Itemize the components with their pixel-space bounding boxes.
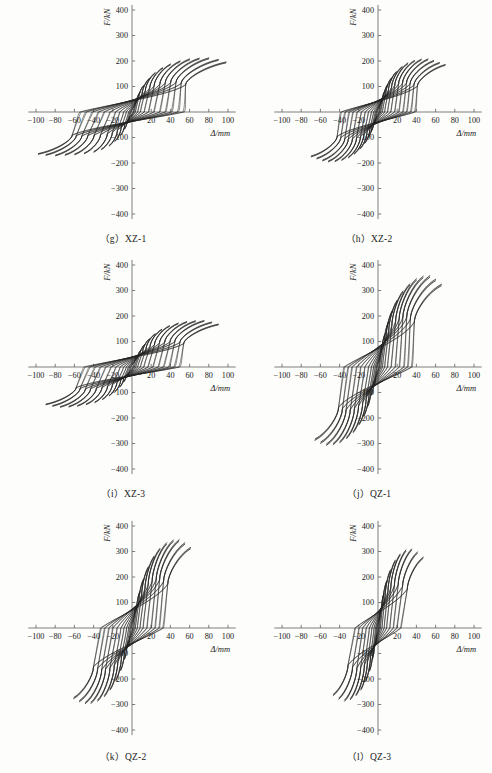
svg-text:200: 200 — [362, 573, 374, 582]
svg-text:80: 80 — [205, 116, 213, 125]
chart-panel-xz-2: −100−80−60−40−2020406080100400300200100−… — [246, 0, 492, 255]
svg-text:−400: −400 — [357, 210, 374, 219]
svg-text:−100: −100 — [274, 116, 291, 125]
svg-text:300: 300 — [116, 31, 128, 40]
svg-text:100: 100 — [116, 82, 128, 91]
svg-text:−80: −80 — [295, 632, 308, 641]
svg-text:Δ/mm: Δ/mm — [455, 644, 476, 654]
svg-text:−40: −40 — [87, 371, 100, 380]
svg-text:−60: −60 — [68, 632, 81, 641]
svg-text:−40: −40 — [333, 632, 346, 641]
svg-text:40: 40 — [412, 632, 420, 641]
svg-text:F/kN: F/kN — [348, 523, 358, 542]
hysteresis-plot-qz-2: −100−80−60−40−2020406080100400300200100−… — [0, 510, 246, 748]
svg-text:200: 200 — [362, 57, 374, 66]
svg-text:−80: −80 — [49, 632, 62, 641]
svg-text:−100: −100 — [28, 116, 45, 125]
svg-text:F/kN: F/kN — [348, 262, 358, 281]
svg-text:100: 100 — [468, 632, 480, 641]
svg-text:−400: −400 — [357, 465, 374, 474]
svg-text:200: 200 — [116, 573, 128, 582]
svg-text:100: 100 — [362, 82, 374, 91]
svg-text:400: 400 — [116, 522, 128, 531]
panel-caption-xz-1: （g）XZ-1 — [0, 231, 246, 245]
svg-text:−80: −80 — [295, 371, 308, 380]
svg-text:F/kN: F/kN — [102, 7, 112, 26]
panel-caption-xz-2: （h）XZ-2 — [246, 231, 492, 245]
svg-text:400: 400 — [116, 261, 128, 270]
svg-text:Δ/mm: Δ/mm — [455, 128, 476, 138]
svg-text:Δ/mm: Δ/mm — [209, 644, 230, 654]
svg-text:−60: −60 — [314, 116, 327, 125]
svg-text:200: 200 — [362, 312, 374, 321]
svg-text:−60: −60 — [68, 371, 81, 380]
svg-text:80: 80 — [205, 371, 213, 380]
svg-text:−300: −300 — [357, 439, 374, 448]
svg-text:300: 300 — [362, 547, 374, 556]
svg-text:−400: −400 — [111, 465, 128, 474]
svg-text:40: 40 — [166, 371, 174, 380]
chart-panel-xz-1: −100−80−60−40−2020406080100400300200100−… — [0, 0, 246, 255]
svg-text:−300: −300 — [357, 700, 374, 709]
svg-text:−300: −300 — [111, 184, 128, 193]
svg-text:100: 100 — [468, 116, 480, 125]
svg-text:100: 100 — [116, 598, 128, 607]
svg-text:80: 80 — [451, 116, 459, 125]
svg-text:400: 400 — [362, 261, 374, 270]
svg-text:−60: −60 — [314, 371, 327, 380]
hysteresis-plot-xz-2: −100−80−60−40−2020406080100400300200100−… — [246, 0, 492, 232]
svg-text:100: 100 — [362, 598, 374, 607]
svg-text:Δ/mm: Δ/mm — [455, 383, 476, 393]
svg-text:60: 60 — [186, 116, 194, 125]
svg-text:−80: −80 — [295, 116, 308, 125]
panel-caption-qz-2: （k）QZ-2 — [0, 749, 246, 763]
svg-text:−400: −400 — [357, 726, 374, 735]
hysteresis-plot-qz-3: −100−80−60−40−2020406080100400300200100−… — [246, 510, 492, 748]
svg-text:−300: −300 — [111, 439, 128, 448]
figure-panel-grid: −100−80−60−40−2020406080100400300200100−… — [0, 0, 492, 773]
svg-text:−100: −100 — [274, 632, 291, 641]
svg-text:−200: −200 — [357, 159, 374, 168]
svg-text:400: 400 — [362, 6, 374, 15]
svg-text:60: 60 — [432, 371, 440, 380]
svg-text:−100: −100 — [111, 388, 128, 397]
svg-text:F/kN: F/kN — [348, 7, 358, 26]
svg-text:100: 100 — [362, 337, 374, 346]
svg-text:Δ/mm: Δ/mm — [209, 383, 230, 393]
svg-text:400: 400 — [362, 522, 374, 531]
svg-text:80: 80 — [451, 632, 459, 641]
svg-text:Δ/mm: Δ/mm — [209, 128, 230, 138]
svg-text:40: 40 — [166, 632, 174, 641]
svg-text:−100: −100 — [28, 371, 45, 380]
svg-text:400: 400 — [116, 6, 128, 15]
svg-text:100: 100 — [468, 371, 480, 380]
chart-panel-qz-3: −100−80−60−40−2020406080100400300200100−… — [246, 510, 492, 773]
svg-text:−80: −80 — [49, 371, 62, 380]
chart-panel-xz-3: −100−80−60−40−2020406080100400300200100−… — [0, 255, 246, 510]
svg-text:300: 300 — [116, 286, 128, 295]
svg-text:−200: −200 — [111, 159, 128, 168]
svg-text:−200: −200 — [111, 414, 128, 423]
svg-text:60: 60 — [432, 116, 440, 125]
svg-text:100: 100 — [222, 116, 234, 125]
hysteresis-plot-xz-3: −100−80−60−40−2020406080100400300200100−… — [0, 255, 246, 487]
svg-text:80: 80 — [451, 371, 459, 380]
panel-caption-qz-3: （l）QZ-3 — [246, 749, 492, 763]
svg-text:−80: −80 — [49, 116, 62, 125]
svg-text:−40: −40 — [333, 371, 346, 380]
svg-text:40: 40 — [166, 116, 174, 125]
panel-caption-qz-1: （j）QZ-1 — [246, 486, 492, 500]
svg-text:−300: −300 — [357, 184, 374, 193]
hysteresis-plot-xz-1: −100−80−60−40−2020406080100400300200100−… — [0, 0, 246, 232]
svg-text:200: 200 — [116, 57, 128, 66]
svg-text:100: 100 — [222, 632, 234, 641]
svg-text:40: 40 — [412, 116, 420, 125]
svg-text:−60: −60 — [314, 632, 327, 641]
svg-text:F/kN: F/kN — [102, 523, 112, 542]
panel-caption-xz-3: （i）XZ-3 — [0, 486, 246, 500]
svg-text:20: 20 — [393, 632, 401, 641]
svg-text:300: 300 — [362, 31, 374, 40]
chart-panel-qz-1: −100−80−60−40−2020406080100400300200100−… — [246, 255, 492, 510]
svg-text:60: 60 — [186, 632, 194, 641]
svg-text:60: 60 — [432, 632, 440, 641]
